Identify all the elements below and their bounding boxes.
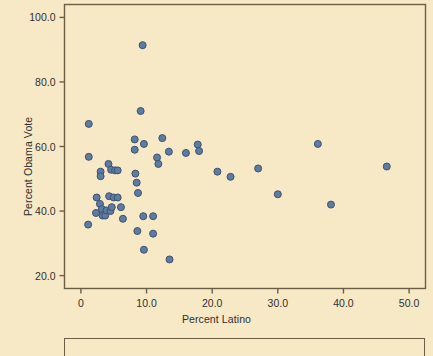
scatter-point — [85, 153, 92, 160]
scatter-point — [155, 160, 162, 167]
scatter-point — [131, 146, 138, 153]
scatter-point — [134, 228, 141, 235]
scatter-point — [150, 213, 157, 220]
scatter-point — [196, 148, 203, 155]
scatter-point — [383, 163, 390, 170]
secondary-panel-frame — [64, 338, 425, 356]
x-tick-label: 10.0 — [136, 297, 156, 309]
scatter-point — [108, 204, 115, 211]
scatter-point — [137, 108, 144, 115]
scatter-point — [114, 194, 121, 201]
scatter-series-states — [85, 42, 391, 263]
x-tick-label: 0 — [78, 297, 84, 309]
scatter-point — [132, 170, 139, 177]
scatter-point — [139, 42, 146, 49]
scatter-point — [140, 213, 147, 220]
x-tick-label: 30.0 — [268, 297, 288, 309]
scatter-point — [133, 179, 140, 186]
scatter-point — [274, 191, 281, 198]
scatter-point — [97, 173, 104, 180]
x-tick-label: 20.0 — [202, 297, 222, 309]
scatter-point — [117, 204, 124, 211]
y-tick-label: 100.0 — [29, 11, 55, 23]
scatter-point — [119, 215, 126, 222]
scatter-point — [327, 201, 334, 208]
scatter-point — [255, 165, 262, 172]
scatter-point — [135, 189, 142, 196]
y-axis-ticks — [60, 17, 65, 275]
scatter-point — [214, 168, 221, 175]
y-axis-title: Percent Obama Vote — [22, 117, 34, 216]
scatter-point — [166, 256, 173, 263]
plot-frame — [65, 5, 426, 289]
y-tick-label: 60.0 — [35, 141, 55, 153]
x-axis-ticks — [81, 289, 409, 294]
scatter-point — [131, 136, 138, 143]
scatter-point — [114, 167, 121, 174]
scatter-point — [150, 230, 157, 237]
scatter-point — [140, 246, 147, 253]
scatter-point — [165, 148, 172, 155]
x-axis-title: Percent Latino — [0, 313, 433, 325]
scatter-plot-figure: Percent Latino Percent Obama Vote 20.040… — [0, 0, 433, 356]
scatter-point — [85, 221, 92, 228]
y-tick-label: 80.0 — [35, 76, 55, 88]
scatter-point — [314, 140, 321, 147]
scatter-point — [182, 149, 189, 156]
x-tick-label: 50.0 — [399, 297, 419, 309]
x-tick-label: 40.0 — [333, 297, 353, 309]
scatter-point — [85, 120, 92, 127]
y-tick-label: 40.0 — [35, 205, 55, 217]
scatter-point — [154, 154, 161, 161]
scatter-point — [159, 135, 166, 142]
scatter-point — [227, 173, 234, 180]
scatter-point — [93, 194, 100, 201]
scatter-point — [194, 141, 201, 148]
scatter-point — [140, 140, 147, 147]
y-tick-label: 20.0 — [35, 270, 55, 282]
